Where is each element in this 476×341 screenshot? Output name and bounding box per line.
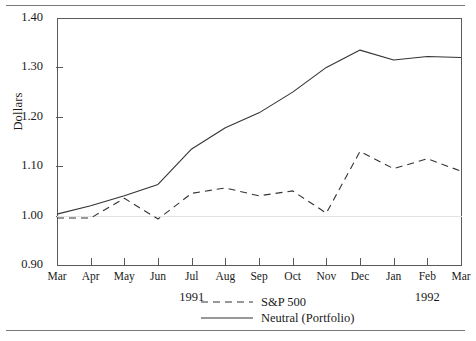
legend-item[interactable]: S&P 500 [200, 294, 354, 310]
y-tick-label: 1.00 [0, 209, 43, 222]
y-tick-label: 1.40 [0, 11, 43, 24]
legend-label: S&P 500 [261, 295, 306, 310]
y-tick-label: 1.20 [0, 110, 43, 123]
series-lines [57, 18, 462, 266]
y-tick-label: 0.90 [0, 258, 43, 271]
legend-swatch-icon [200, 312, 254, 324]
top-rule [6, 5, 465, 6]
chart-legend: S&P 500Neutral (Portfolio) [200, 294, 354, 326]
legend-label: Neutral (Portfolio) [261, 311, 354, 326]
legend-swatch-icon [200, 296, 254, 308]
y-tick-label: 1.10 [0, 159, 43, 172]
x-axis-year-label: 1992 [397, 290, 457, 305]
y-tick-label: 1.30 [0, 60, 43, 73]
series-line [57, 151, 461, 219]
legend-item[interactable]: Neutral (Portfolio) [200, 310, 354, 326]
x-tick-label: Mar [441, 270, 476, 282]
bottom-rule [6, 330, 465, 331]
plot-area: 0.901.001.101.201.301.40 MarAprMayJunJul… [57, 18, 462, 266]
series-line [57, 50, 461, 214]
